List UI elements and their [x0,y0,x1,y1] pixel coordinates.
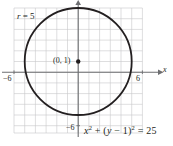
x-axis-tick-label-negative-six: −6 [3,75,12,83]
radius-value: = 5 [23,11,35,21]
radius-label: r = 5 [17,12,35,21]
equation-close-exponent: 2 [132,124,135,131]
circle-equation-label: x2 + (y − 1)2 = 25 [84,125,157,136]
equation-y: y [107,125,112,136]
center-point-label: (0, 1) [53,57,70,65]
center-point-marker [76,59,80,63]
equation-equals-25: = 25 [138,125,157,136]
equation-x-exponent: 2 [89,124,92,131]
y-axis-tick-label-negative-six: −6 [66,124,75,132]
equation-minus-one: − 1 [114,125,128,136]
y-axis [75,0,81,137]
equation-plus: + [95,125,101,136]
circle-graph-figure: r = 5 (0, 1) x −6 6 −6 x2 + (y − 1)2 = 2… [0,0,173,146]
x-axis-label: x [163,66,167,74]
x-axis-tick-label-six: 6 [136,75,140,83]
